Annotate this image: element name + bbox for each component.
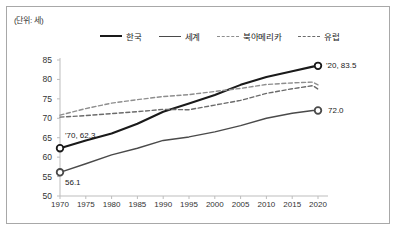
chart-marker-layer	[57, 63, 322, 176]
world-start: 56.1	[65, 178, 81, 187]
y-tick-label: 55	[32, 172, 52, 182]
y-tick-label: 70	[32, 113, 52, 123]
y-tick-label: 60	[32, 152, 52, 162]
line-chart-plot	[0, 0, 398, 232]
chart-axes	[57, 58, 328, 199]
y-tick-label: 75	[32, 94, 52, 104]
korea-end: '20, 83.5	[326, 61, 356, 70]
endpoint-marker-1	[315, 107, 322, 114]
y-tick-label: 80	[32, 74, 52, 84]
y-tick-label: 65	[32, 133, 52, 143]
endpoint-marker-0	[315, 63, 322, 70]
chart-series-layer	[60, 66, 318, 172]
series-line-0	[60, 66, 318, 148]
series-line-1	[60, 111, 318, 173]
x-tick-label: 2020	[303, 200, 333, 209]
y-tick-label: 85	[32, 55, 52, 65]
endpoint-marker-0	[57, 145, 64, 152]
world-end: 72.0	[328, 106, 344, 115]
korea-start: '70, 62.3	[65, 131, 95, 140]
series-line-3	[60, 86, 318, 117]
endpoint-marker-1	[57, 169, 64, 176]
